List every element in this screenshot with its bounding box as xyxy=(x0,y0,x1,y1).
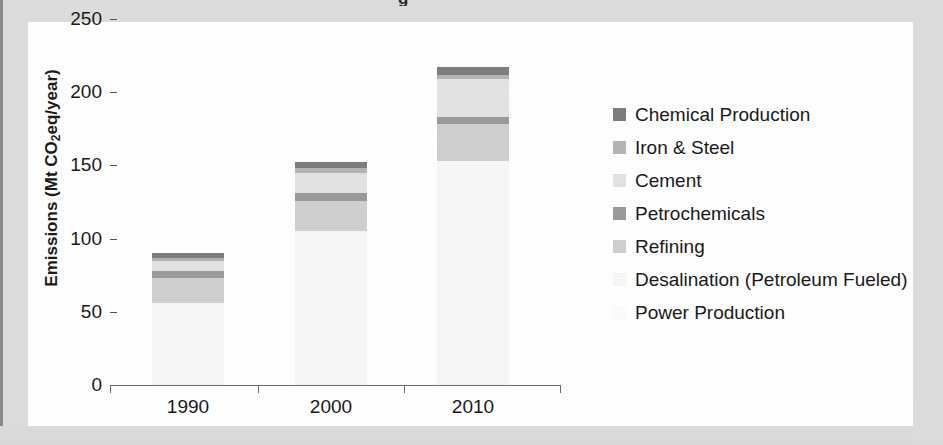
y-axis-title: Emissions (Mt CO2eq/year) xyxy=(42,8,62,348)
y-tick-label: 250 xyxy=(42,8,102,30)
x-tick-mark xyxy=(560,385,561,393)
bar-segment xyxy=(295,201,367,232)
y-tick-mark xyxy=(110,239,117,240)
bar-segment xyxy=(437,124,509,161)
bar-segment xyxy=(437,161,509,385)
x-tick-mark xyxy=(110,385,111,393)
chart-legend: Chemical ProductionIron & SteelCementPet… xyxy=(613,98,907,329)
legend-swatch-icon xyxy=(613,108,626,121)
bar-segment xyxy=(295,231,367,385)
x-tick-mark xyxy=(404,385,405,393)
bar-segment xyxy=(152,278,224,303)
y-tick-label: 200 xyxy=(42,81,102,103)
stacked-bar xyxy=(295,162,367,385)
bar-segment xyxy=(295,173,367,193)
bar-segment xyxy=(437,117,509,124)
legend-swatch-icon xyxy=(613,306,626,319)
bar-segment xyxy=(152,303,224,385)
y-tick-label: 50 xyxy=(42,301,102,323)
legend-label: Cement xyxy=(635,170,702,192)
x-tick-mark xyxy=(258,385,259,393)
legend-item: Cement xyxy=(613,164,907,197)
y-tick-label: 100 xyxy=(42,228,102,250)
legend-item: Chemical Production xyxy=(613,98,907,131)
legend-item: Iron & Steel xyxy=(613,131,907,164)
legend-item: Desalination (Petroleum Fueled) xyxy=(613,263,907,296)
bar-segment xyxy=(152,271,224,278)
bar-segment xyxy=(295,193,367,200)
y-tick-mark xyxy=(110,19,117,20)
legend-label: Desalination (Petroleum Fueled) xyxy=(635,269,907,291)
legend-label: Chemical Production xyxy=(635,104,810,126)
legend-label: Petrochemicals xyxy=(635,203,765,225)
x-tick-label: 1990 xyxy=(143,396,233,418)
y-tick-label: 0 xyxy=(42,374,102,396)
x-tick-label: 2010 xyxy=(428,396,518,418)
y-tick-mark xyxy=(110,165,117,166)
legend-label: Refining xyxy=(635,236,705,258)
legend-item: Petrochemicals xyxy=(613,197,907,230)
stacked-bar xyxy=(152,253,224,385)
legend-item: Refining xyxy=(613,230,907,263)
legend-swatch-icon xyxy=(613,273,626,286)
bar-segment xyxy=(152,261,224,271)
legend-label: Power Production xyxy=(635,302,785,324)
stacked-bar xyxy=(437,67,509,385)
legend-swatch-icon xyxy=(613,240,626,253)
y-axis-title-sub: 2 xyxy=(49,135,63,142)
bar-segment xyxy=(437,67,509,74)
legend-swatch-icon xyxy=(613,174,626,187)
x-tick-label: 2000 xyxy=(286,396,376,418)
x-axis-baseline xyxy=(110,385,560,386)
y-tick-mark xyxy=(110,312,117,313)
bar-segment xyxy=(437,79,509,117)
legend-item: Power Production xyxy=(613,296,907,329)
legend-swatch-icon xyxy=(613,207,626,220)
legend-swatch-icon xyxy=(613,141,626,154)
y-tick-label: 150 xyxy=(42,154,102,176)
legend-label: Iron & Steel xyxy=(635,137,734,159)
y-tick-mark xyxy=(110,92,117,93)
chart-screenshot: g Emissions (Mt CO2eq/year) 050100150200… xyxy=(0,0,943,445)
